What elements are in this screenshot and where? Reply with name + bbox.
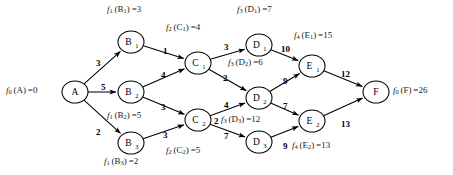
node-label-subscript: 2 bbox=[316, 121, 319, 128]
node-label: C bbox=[192, 58, 198, 68]
edge-weight-b2-c2: 3 bbox=[161, 102, 166, 112]
node-label-subscript: 2 bbox=[202, 120, 205, 127]
edge-weight-a-b1: 3 bbox=[96, 58, 101, 68]
node-e2[interactable]: E2 bbox=[299, 110, 325, 132]
node-label: C bbox=[192, 115, 198, 125]
edge-weight-d3-e2: 9 bbox=[283, 141, 288, 151]
node-c2[interactable]: C2 bbox=[185, 109, 211, 131]
node-label-subscript: 3 bbox=[263, 142, 266, 149]
value-label-f4e2: f4 (E2) =13 bbox=[292, 140, 330, 150]
edge-weight-b2-c1: 4 bbox=[161, 70, 166, 80]
node-d3[interactable]: D3 bbox=[246, 131, 272, 153]
edge-weight-e1-f: 12 bbox=[341, 69, 350, 79]
edge-weight-b1-c1: 1 bbox=[163, 46, 168, 56]
value-label-f2c1: f2 (C1) =4 bbox=[166, 22, 200, 32]
node-label-subscript: 1 bbox=[316, 66, 319, 73]
edge-weight-c1-d2: 2 bbox=[223, 73, 228, 83]
node-label-subscript: 3 bbox=[135, 143, 138, 150]
network-diagram: AB1B2B3C1C2D1D2D3E1E2F bbox=[0, 0, 453, 175]
value-label-f3d1: f3 (D1) =7 bbox=[237, 4, 272, 14]
node-b3[interactable]: B3 bbox=[118, 132, 144, 154]
edge-weight-e2-f: 13 bbox=[341, 119, 350, 129]
edge-weight-a-b2: 5 bbox=[101, 82, 106, 92]
node-label-subscript: 2 bbox=[135, 92, 138, 99]
node-label-subscript: 1 bbox=[263, 45, 266, 52]
node-label: D bbox=[253, 137, 260, 147]
node-label: B bbox=[125, 138, 131, 148]
edge-weight-c2-d3b: 2 bbox=[214, 116, 219, 126]
node-d2[interactable]: D2 bbox=[246, 87, 272, 109]
value-label-f4e1: f4 (E1) =15 bbox=[294, 30, 332, 40]
node-label: D bbox=[253, 93, 260, 103]
node-e1[interactable]: E1 bbox=[299, 55, 325, 77]
node-c1[interactable]: C1 bbox=[185, 52, 211, 74]
edge-weight-c1-d1: 3 bbox=[224, 42, 229, 52]
node-label: B bbox=[125, 87, 131, 97]
value-label-f1b1: f1 (B1) =3 bbox=[107, 4, 141, 14]
value-label-f0f: f0 (F) =26 bbox=[393, 85, 427, 95]
node-d1[interactable]: D1 bbox=[246, 34, 272, 56]
node-label: B bbox=[125, 37, 131, 47]
edge-weight-d1-e1: 10 bbox=[281, 44, 290, 54]
node-label-subscript: 2 bbox=[263, 98, 266, 105]
edge-weight-a-b3: 2 bbox=[96, 127, 101, 137]
value-label-f3d3: f3 (D3) =12 bbox=[221, 114, 260, 124]
node-label: D bbox=[253, 40, 260, 50]
node-b1[interactable]: B1 bbox=[118, 31, 144, 53]
node-b2[interactable]: B2 bbox=[118, 81, 144, 103]
value-label-f1b2: f1 (B2) =5 bbox=[107, 110, 141, 120]
node-label: E bbox=[307, 61, 313, 71]
node-label: A bbox=[72, 87, 79, 97]
value-label-f2c2: f2 (C2) =5 bbox=[166, 145, 200, 155]
node-label-subscript: 1 bbox=[135, 42, 138, 49]
edge-weight-c2-d3: 7 bbox=[224, 131, 229, 141]
edge-d3-e2 bbox=[271, 126, 298, 137]
node-label-subscript: 1 bbox=[202, 63, 205, 70]
edge-weight-d2-e2: 7 bbox=[283, 101, 288, 111]
value-label-f0a: f0 (A) =0 bbox=[6, 85, 37, 95]
edge-weight-c2-d2: 4 bbox=[224, 100, 229, 110]
value-label-f1b3: f1 (B3) =2 bbox=[104, 156, 138, 166]
edge-weight-b3-c2: 3 bbox=[163, 130, 168, 140]
node-label: F bbox=[373, 87, 378, 97]
edge-weight-d2-e1: 9 bbox=[283, 76, 288, 86]
value-label-f3d2: f3 (D2) =6 bbox=[228, 57, 263, 67]
node-f[interactable]: F bbox=[363, 81, 389, 103]
edge-a-b1 bbox=[84, 51, 120, 83]
node-a[interactable]: A bbox=[62, 81, 88, 103]
node-label: E bbox=[307, 116, 313, 126]
edge-e2-f bbox=[324, 98, 363, 116]
